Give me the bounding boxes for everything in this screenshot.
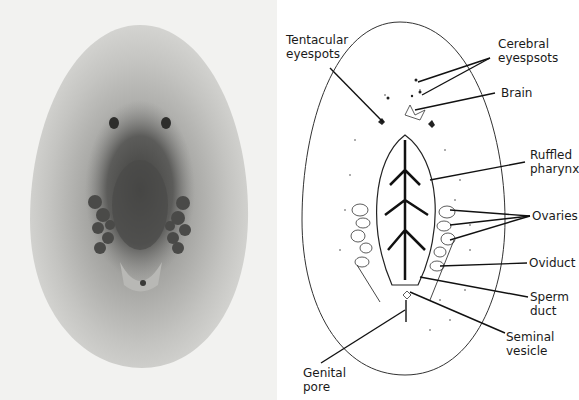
label-genital-pore: Genital pore <box>303 366 346 394</box>
anatomy-line-drawing: Tentacular eyespots Cerebral eyespsots B… <box>277 0 578 400</box>
label-seminal-vesicle: Seminal vesicle <box>506 330 554 358</box>
specimen-photograph <box>0 0 277 400</box>
label-tentacular-eyespots: Tentacular eyespots <box>286 33 348 61</box>
label-ovaries: Ovaries <box>532 209 578 223</box>
label-brain: Brain <box>501 86 532 100</box>
label-ruffled-pharynx: Ruffled pharynx <box>530 148 579 176</box>
specimen-photo-graphic <box>0 0 277 400</box>
label-sperm-duct: Sperm duct <box>530 290 569 318</box>
label-oviduct: Oviduct <box>529 256 575 270</box>
label-cerebral-eyespots: Cerebral eyespsots <box>498 37 558 65</box>
